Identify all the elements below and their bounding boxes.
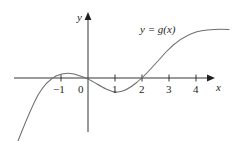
xtick-label-0: 0 xyxy=(78,84,84,95)
xtick-label-4: 4 xyxy=(193,84,199,95)
x-axis-arrowhead xyxy=(207,75,215,82)
function-graph-figure: −1 0 1 2 3 4 y x y = g(x) xyxy=(0,0,234,141)
xtick-label--1: −1 xyxy=(53,84,65,95)
xtick-label-1: 1 xyxy=(112,84,118,95)
y-axis-label: y xyxy=(77,12,82,23)
x-axis-label: x xyxy=(216,82,221,93)
curve-label: y = g(x) xyxy=(140,24,176,35)
plot-canvas xyxy=(0,0,234,141)
y-axis-arrowhead xyxy=(85,12,92,20)
y-axis-group xyxy=(85,12,92,132)
xtick-label-2: 2 xyxy=(139,84,145,95)
xtick-label-3: 3 xyxy=(166,84,172,95)
x-axis-group xyxy=(14,75,215,82)
